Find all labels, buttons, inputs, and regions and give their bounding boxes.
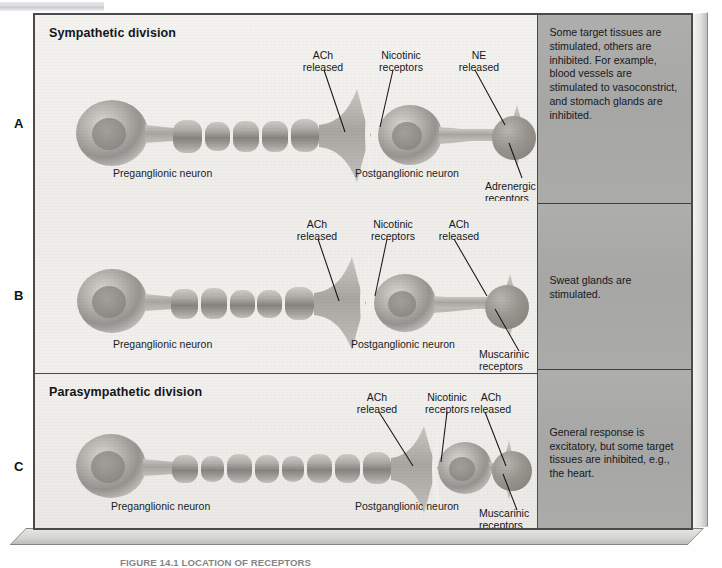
panel-row-c: Parasympathetic division <box>35 373 537 528</box>
callout-ach-released-c-2: ACh released <box>459 392 523 416</box>
callout-adrenergic-receptors-a: Adrenergic receptors <box>485 181 537 201</box>
division-title-c: Parasympathetic division <box>49 385 202 399</box>
panel-row-a: Sympathetic division <box>35 15 537 201</box>
row-label-c: C <box>14 459 23 474</box>
callout-ach-released-b: ACh released <box>281 219 353 243</box>
division-title-a: Sympathetic division <box>49 26 176 40</box>
callout-nicotinic-receptors-b: Nicotinic receptors <box>353 219 433 243</box>
row-label-a: A <box>14 116 23 131</box>
callout-ach-released-b-2: ACh released <box>425 219 493 243</box>
scan-artifact-bar <box>0 2 104 11</box>
postganglionic-neuron-label-b: Postganglionic neuron <box>351 338 455 350</box>
callout-ach-released-c: ACh released <box>341 392 413 416</box>
callout-nicotinic-receptors-a: Nicotinic receptors <box>361 50 441 74</box>
preganglionic-neuron-label-b: Preganglionic neuron <box>113 338 212 350</box>
board-bevel-bottom <box>10 528 704 545</box>
preganglionic-neuron-label-c: Preganglionic neuron <box>111 500 210 512</box>
postganglionic-neuron-label-a: Postganglionic neuron <box>355 167 459 179</box>
effect-description-c: General response is excitatory, but some… <box>538 370 691 528</box>
callout-ne-released-a: NE released <box>447 50 511 74</box>
diagram-board: Sympathetic division <box>33 13 693 530</box>
figure-caption: FIGURE 14.1 LOCATION OF RECEPTORS <box>120 557 640 568</box>
neuron-diagram-a <box>35 15 537 201</box>
preganglionic-neuron-label-a: Preganglionic neuron <box>113 167 212 179</box>
panel-row-b: ACh released Nicotinic receptors ACh rel… <box>35 201 537 373</box>
callout-ach-released-a: ACh released <box>287 50 359 74</box>
postganglionic-neuron-label-c: Postganglionic neuron <box>355 500 459 512</box>
board-bevel-right <box>692 13 708 528</box>
effect-description-b: Sweat glands are stimulated. <box>538 204 691 370</box>
effect-description-a: Some target tissues are stimulated, othe… <box>538 15 691 204</box>
effects-column: Some target tissues are stimulated, othe… <box>538 15 691 528</box>
row-label-b: B <box>14 288 23 303</box>
callout-muscarinic-receptors-b: Muscarinic receptors <box>479 349 537 373</box>
figure-page: Sympathetic division <box>0 0 722 568</box>
callout-muscarinic-receptors-c: Muscarinic receptors <box>479 508 537 528</box>
diagram-column: Sympathetic division <box>35 15 538 528</box>
